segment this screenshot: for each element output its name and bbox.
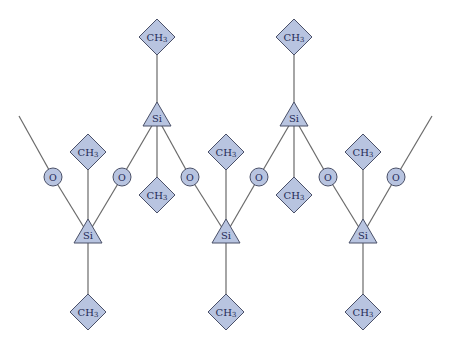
methyl-group: CH3 xyxy=(276,177,312,213)
bond-chain-end-left xyxy=(19,116,53,177)
silicon-atom: Si xyxy=(212,219,240,243)
bonds xyxy=(19,37,432,312)
silicon-atom: Si xyxy=(349,219,377,243)
oxygen-label: O xyxy=(186,172,194,183)
methyl-group: CH3 xyxy=(345,134,381,170)
methyl-group: CH3 xyxy=(208,294,244,330)
silicon-atom: Si xyxy=(74,219,102,243)
silicon-label: Si xyxy=(358,230,368,241)
bond xyxy=(363,177,396,234)
oxygen-atom: O xyxy=(44,168,62,186)
methyl-group: CH3 xyxy=(208,134,244,170)
methyl-group: CH3 xyxy=(276,19,312,55)
oxygen-atom: O xyxy=(387,168,405,186)
methyl-group: CH3 xyxy=(139,19,175,55)
methyl-group: CH3 xyxy=(70,294,106,330)
bond-chain-end-right xyxy=(396,116,432,177)
oxygen-atom: O xyxy=(181,168,199,186)
bond xyxy=(88,177,122,234)
oxygen-label: O xyxy=(255,172,263,183)
methyl-group: CH3 xyxy=(70,134,106,170)
oxygen-label: O xyxy=(49,172,57,183)
methyl-group: CH3 xyxy=(139,177,175,213)
silicon-label: Si xyxy=(83,230,93,241)
silicon-label: Si xyxy=(152,113,162,124)
polysiloxane-structure-diagram: CH3CH3CH3CH3CH3CH3CH3CH3CH3CH3SiSiSiSiSi… xyxy=(0,0,449,345)
oxygen-atom: O xyxy=(250,168,268,186)
bond xyxy=(328,177,363,234)
silicon-atom: Si xyxy=(280,102,308,126)
oxygen-label: O xyxy=(118,172,126,183)
atoms: CH3CH3CH3CH3CH3CH3CH3CH3CH3CH3SiSiSiSiSi… xyxy=(44,19,405,330)
bond xyxy=(190,177,226,234)
methyl-group: CH3 xyxy=(345,294,381,330)
oxygen-atom: O xyxy=(113,168,131,186)
bond xyxy=(226,177,259,234)
oxygen-label: O xyxy=(392,172,400,183)
bond xyxy=(53,177,88,234)
silicon-label: Si xyxy=(289,113,299,124)
silicon-atom: Si xyxy=(143,102,171,126)
silicon-label: Si xyxy=(221,230,231,241)
oxygen-label: O xyxy=(324,172,332,183)
oxygen-atom: O xyxy=(319,168,337,186)
